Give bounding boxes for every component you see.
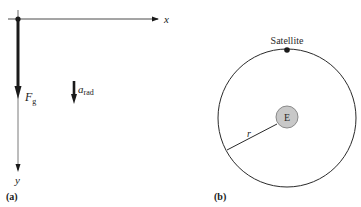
satellite-label: Satellite bbox=[271, 35, 304, 46]
x-axis-label: x bbox=[163, 13, 169, 25]
origin-dot bbox=[15, 16, 20, 21]
y-axis-arrowhead-icon bbox=[16, 164, 21, 172]
panel-a: x y Fg arad (a) bbox=[6, 10, 169, 203]
force-arrowhead-icon bbox=[15, 86, 22, 99]
acceleration-label: arad bbox=[78, 83, 94, 97]
y-axis bbox=[16, 96, 21, 172]
panel-b-caption: (b) bbox=[214, 191, 226, 203]
radius-label: r bbox=[247, 128, 251, 139]
radial-acceleration-vector bbox=[71, 81, 77, 104]
satellite-dot-icon bbox=[284, 47, 290, 53]
radius-line bbox=[227, 124, 277, 150]
panel-b: r E Satellite (b) bbox=[214, 35, 356, 203]
x-axis-arrowhead-icon bbox=[152, 17, 159, 22]
acceleration-arrowhead-icon bbox=[71, 94, 77, 104]
gravity-force-vector bbox=[15, 19, 22, 99]
force-label: Fg bbox=[24, 90, 36, 106]
y-axis-label: y bbox=[14, 174, 20, 186]
panel-a-caption: (a) bbox=[6, 191, 18, 203]
diagram-canvas: x y Fg arad (a) r E bbox=[0, 0, 361, 207]
earth-label: E bbox=[284, 112, 290, 123]
x-axis bbox=[8, 17, 159, 22]
earth: E bbox=[276, 106, 298, 128]
